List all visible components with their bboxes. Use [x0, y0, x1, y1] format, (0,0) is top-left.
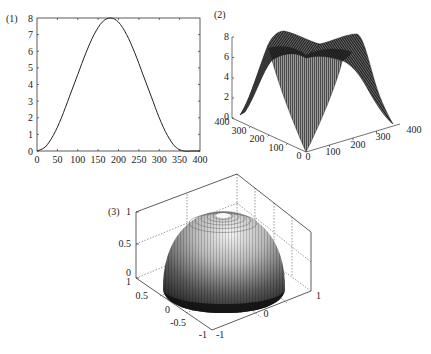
- left-axis-label: -1: [199, 329, 207, 340]
- left-axis-label: 1: [126, 276, 131, 287]
- y-tick-label: 2: [28, 112, 33, 123]
- left-axis-label: 200: [250, 133, 265, 144]
- x-tick-label: 50: [52, 154, 62, 165]
- right-axis-label: 200: [351, 139, 366, 150]
- plot-2-left-edge: [240, 45, 272, 115]
- left-axis-label: 0.5: [136, 290, 149, 301]
- right-axis-label: 400: [407, 124, 422, 135]
- x-tick-label: 0: [35, 154, 40, 165]
- plot-1-line-chart: (1) 0 1 2 3 4 5 6 7 8: [6, 13, 208, 166]
- y-tick-label: 6: [28, 46, 33, 57]
- plot-2-surface: (2) 0 2 4 6 8 400 300 200 100 0: [214, 9, 422, 162]
- x-tick-label: 350: [172, 154, 187, 165]
- plot-1-x-axis: 0 50 100 150 200 250 300 350 400: [35, 18, 208, 165]
- z-tick-label: 6: [224, 51, 229, 62]
- x-tick-label: 150: [91, 154, 106, 165]
- y-tick-label: 8: [28, 13, 33, 24]
- x-tick-label: 250: [131, 154, 146, 165]
- plot-1-label: (1): [6, 13, 18, 25]
- x-tick-label: 400: [193, 154, 208, 165]
- left-axis-label: 0: [165, 304, 170, 315]
- x-tick-label: 100: [70, 154, 85, 165]
- z-tick-label: 1: [126, 206, 131, 217]
- plot-1-curve: [37, 18, 200, 151]
- plot-3-label: (3): [108, 206, 120, 218]
- z-tick-label: 2: [224, 91, 229, 102]
- right-axis-label: 100: [326, 146, 341, 157]
- plot-2-front-face: [272, 54, 342, 152]
- right-axis-label: 300: [376, 131, 391, 142]
- y-tick-label: 3: [28, 96, 33, 107]
- left-axis-label: 100: [269, 142, 284, 153]
- left-axis-label: 300: [232, 125, 247, 136]
- y-tick-label: 5: [28, 62, 33, 73]
- y-tick-label: 0: [28, 146, 33, 157]
- plot-1-axes-box: [37, 18, 200, 151]
- z-tick-label: 0.5: [119, 238, 132, 249]
- z-tick-label: 8: [224, 31, 229, 42]
- y-tick-label: 4: [28, 79, 33, 90]
- z-tick-label: 4: [224, 71, 229, 82]
- right-axis-label: 1: [316, 290, 321, 301]
- plot-3-dome-stripes: [163, 211, 285, 313]
- plot-2-label: (2): [214, 9, 226, 21]
- right-axis-label: -1: [216, 329, 224, 340]
- left-axis-label: -0.5: [170, 317, 186, 328]
- right-axis-label: 0: [306, 151, 311, 162]
- right-axis-label: 0: [264, 308, 269, 319]
- y-tick-label: 7: [28, 29, 33, 40]
- figure-canvas: (1) 0 1 2 3 4 5 6 7 8: [0, 0, 431, 354]
- plot-3-top-highlight: [216, 213, 230, 218]
- x-tick-label: 300: [152, 154, 167, 165]
- left-axis-label: 400: [215, 116, 230, 127]
- plot-3-hemisphere: (3): [108, 174, 321, 340]
- y-tick-label: 1: [28, 129, 33, 140]
- x-tick-label: 200: [111, 154, 126, 165]
- left-axis-label: 0: [297, 150, 302, 161]
